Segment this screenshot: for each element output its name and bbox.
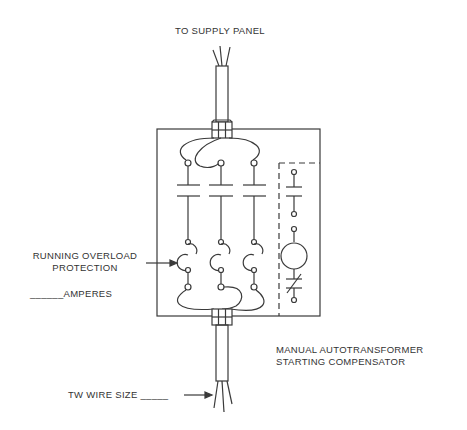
- amperes-label: AMPERES: [64, 288, 113, 299]
- wire-size-blank: _____: [141, 389, 169, 400]
- overload-label-line2: PROTECTION: [20, 262, 150, 274]
- compensator-label-line1: MANUAL AUTOTRANSFORMER: [276, 344, 424, 356]
- wire-size-arrow: [184, 392, 212, 398]
- compensator-label-line2: STARTING COMPENSATOR: [276, 356, 405, 368]
- terminal-block-bottom: [212, 309, 232, 325]
- wire-size-field: TW WIRE SIZE _____: [68, 389, 168, 401]
- supply-cable: [213, 46, 230, 122]
- overload-label-line1: RUNNING OVERLOAD: [20, 250, 150, 262]
- terminal-block-top: [212, 120, 232, 138]
- load-cable: [214, 325, 232, 412]
- phase-columns: [177, 160, 266, 290]
- control-circuit: [281, 170, 307, 303]
- supply-panel-label: TO SUPPLY PANEL: [175, 25, 265, 37]
- coil-symbol: [281, 243, 307, 269]
- wire-size-label: TW WIRE SIZE: [68, 389, 138, 400]
- amperes-blank: ______: [30, 288, 64, 299]
- amperes-field: ______AMPERES: [30, 288, 112, 300]
- overload-arrow: [146, 260, 177, 266]
